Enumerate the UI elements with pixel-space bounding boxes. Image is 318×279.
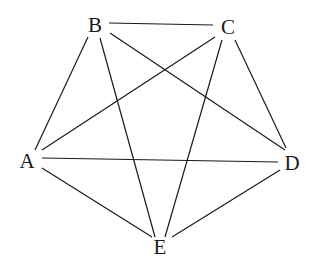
node-label-d: D bbox=[284, 151, 299, 175]
edge-a-e bbox=[42, 168, 152, 237]
complete-graph-k5: ABCDE bbox=[0, 0, 318, 279]
nodes-group: ABCDE bbox=[19, 13, 299, 259]
edges-group bbox=[35, 23, 286, 237]
edge-c-a bbox=[42, 37, 215, 150]
edge-a-d bbox=[42, 158, 278, 162]
node-label-e: E bbox=[154, 235, 167, 259]
edge-c-e bbox=[165, 40, 222, 237]
edge-b-e bbox=[100, 38, 155, 237]
edge-c-d bbox=[235, 40, 286, 148]
edge-d-e bbox=[172, 170, 280, 237]
node-label-c: C bbox=[221, 15, 235, 39]
node-label-a: A bbox=[19, 149, 35, 173]
edge-b-a bbox=[35, 37, 88, 150]
node-label-b: B bbox=[88, 13, 102, 37]
edge-b-c bbox=[109, 23, 213, 25]
